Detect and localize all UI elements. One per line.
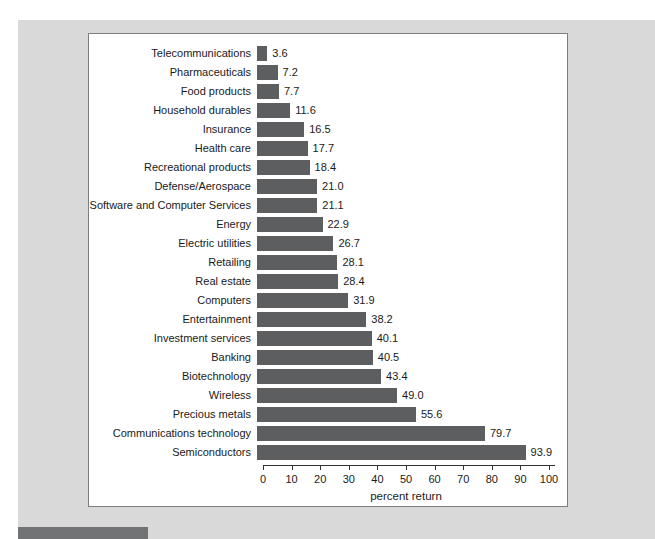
bar-track: 16.5 xyxy=(257,122,567,137)
category-label: Defense/Aerospace xyxy=(89,181,257,192)
value-label: 31.9 xyxy=(353,295,374,306)
chart-row: Health care17.7 xyxy=(89,139,567,158)
x-axis-line xyxy=(263,465,555,466)
category-label: Wireless xyxy=(89,390,257,401)
bar-track: 7.2 xyxy=(257,65,567,80)
x-axis-spacer xyxy=(89,465,263,511)
bar xyxy=(257,122,304,137)
bar-track: 31.9 xyxy=(257,293,567,308)
bar xyxy=(257,179,317,194)
x-tick-label: 20 xyxy=(314,474,326,485)
value-label: 38.2 xyxy=(371,314,392,325)
category-label: Precious metals xyxy=(89,409,257,420)
chart-row: Real estate28.4 xyxy=(89,272,567,291)
category-label: Household durables xyxy=(89,105,257,116)
chart-row: Banking40.5 xyxy=(89,348,567,367)
bar-track: 40.5 xyxy=(257,350,567,365)
bar-track: 28.1 xyxy=(257,255,567,270)
bar-track: 22.9 xyxy=(257,217,567,232)
category-label: Biotechnology xyxy=(89,371,257,382)
category-label: Computers xyxy=(89,295,257,306)
x-tick-label: 0 xyxy=(260,474,266,485)
bar xyxy=(257,217,323,232)
chart-row: Communications technology79.7 xyxy=(89,424,567,443)
x-tick xyxy=(435,465,436,470)
category-label: Energy xyxy=(89,219,257,230)
bar xyxy=(257,236,333,251)
value-label: 26.7 xyxy=(338,238,359,249)
bar xyxy=(257,445,526,460)
value-label: 18.4 xyxy=(315,162,336,173)
bar-track: 21.1 xyxy=(257,198,567,213)
chart-row: Defense/Aerospace21.0 xyxy=(89,177,567,196)
bar xyxy=(257,331,372,346)
bar xyxy=(257,84,279,99)
x-tick-label: 40 xyxy=(371,474,383,485)
x-tick xyxy=(377,465,378,470)
bar-track: 55.6 xyxy=(257,407,567,422)
bar xyxy=(257,312,366,327)
bar-track: 38.2 xyxy=(257,312,567,327)
chart-row: Household durables11.6 xyxy=(89,101,567,120)
category-label: Investment services xyxy=(89,333,257,344)
x-tick-label: 80 xyxy=(486,474,498,485)
bar-track: 3.6 xyxy=(257,46,567,61)
x-tick-label: 30 xyxy=(343,474,355,485)
category-label: Recreational products xyxy=(89,162,257,173)
category-label: Pharmaceuticals xyxy=(89,67,257,78)
value-label: 40.5 xyxy=(378,352,399,363)
bar xyxy=(257,369,381,384)
chart-row: Electric utilities26.7 xyxy=(89,234,567,253)
bar xyxy=(257,141,308,156)
x-tick-label: 50 xyxy=(400,474,412,485)
bar-track: 43.4 xyxy=(257,369,567,384)
chart-rows: Telecommunications3.6Pharmaceuticals7.2F… xyxy=(89,34,567,462)
chart-row: Investment services40.1 xyxy=(89,329,567,348)
value-label: 7.7 xyxy=(284,86,299,97)
value-label: 21.0 xyxy=(322,181,343,192)
chart-row: Retailing28.1 xyxy=(89,253,567,272)
bar-track: 93.9 xyxy=(257,445,567,460)
x-axis-row: percent return 0102030405060708090100 xyxy=(89,465,567,511)
bar-track: 49.0 xyxy=(257,388,567,403)
chart-row: Food products7.7 xyxy=(89,82,567,101)
value-label: 79.7 xyxy=(490,428,511,439)
x-tick xyxy=(549,465,550,470)
x-tick-label: 70 xyxy=(457,474,469,485)
x-tick-label: 10 xyxy=(285,474,297,485)
category-label: Software and Computer Services xyxy=(89,200,257,211)
bar xyxy=(257,103,290,118)
category-label: Retailing xyxy=(89,257,257,268)
x-tick xyxy=(463,465,464,470)
category-label: Electric utilities xyxy=(89,238,257,249)
category-label: Food products xyxy=(89,86,257,97)
value-label: 16.5 xyxy=(309,124,330,135)
bar-track: 79.7 xyxy=(257,426,567,441)
category-label: Semiconductors xyxy=(89,447,257,458)
x-tick xyxy=(320,465,321,470)
x-tick xyxy=(349,465,350,470)
x-axis: percent return 0102030405060708090100 xyxy=(263,465,567,511)
chart-row: Entertainment38.2 xyxy=(89,310,567,329)
chart-panel: Telecommunications3.6Pharmaceuticals7.2F… xyxy=(88,33,568,507)
value-label: 21.1 xyxy=(322,200,343,211)
category-label: Banking xyxy=(89,352,257,363)
value-label: 49.0 xyxy=(402,390,423,401)
value-label: 40.1 xyxy=(377,333,398,344)
x-tick xyxy=(406,465,407,470)
chart-row: Biotechnology43.4 xyxy=(89,367,567,386)
x-tick xyxy=(292,465,293,470)
x-tick-label: 90 xyxy=(514,474,526,485)
value-label: 11.6 xyxy=(295,105,316,116)
chart-row: Telecommunications3.6 xyxy=(89,44,567,63)
chart-row: Pharmaceuticals7.2 xyxy=(89,63,567,82)
x-tick xyxy=(520,465,521,470)
bar xyxy=(257,293,348,308)
bar xyxy=(257,274,338,289)
chart-row: Insurance16.5 xyxy=(89,120,567,139)
bar-track: 7.7 xyxy=(257,84,567,99)
category-label: Telecommunications xyxy=(89,48,257,59)
chart-row: Semiconductors93.9 xyxy=(89,443,567,462)
chart-row: Precious metals55.6 xyxy=(89,405,567,424)
gray-background-panel: Telecommunications3.6Pharmaceuticals7.2F… xyxy=(18,20,655,539)
